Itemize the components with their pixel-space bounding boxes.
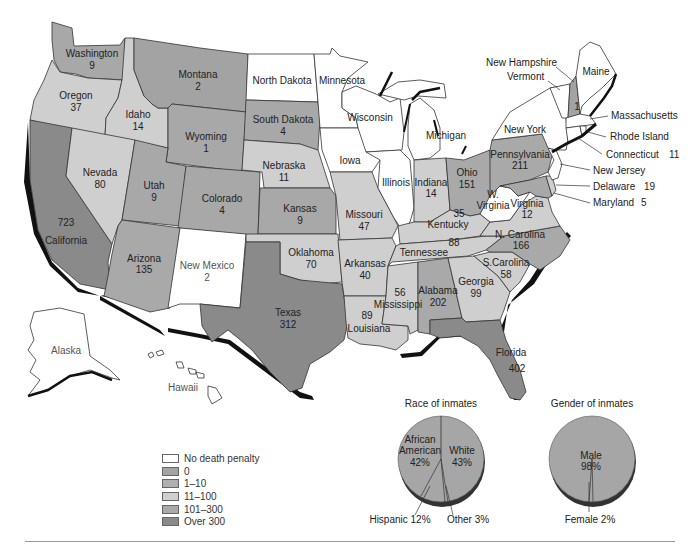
svg-text:Male: Male bbox=[580, 450, 602, 461]
svg-text:Vermont: Vermont bbox=[507, 71, 544, 82]
svg-text:11: 11 bbox=[279, 172, 290, 183]
legend-label: No death penalty bbox=[184, 453, 260, 464]
svg-text:Wisconsin: Wisconsin bbox=[347, 112, 393, 123]
svg-text:Missouri: Missouri bbox=[345, 209, 382, 220]
svg-text:Oklahoma: Oklahoma bbox=[288, 247, 334, 258]
svg-text:2: 2 bbox=[204, 272, 210, 283]
svg-text:Hispanic 12%: Hispanic 12% bbox=[369, 514, 430, 525]
svg-text:Massachusetts: Massachusetts bbox=[611, 110, 678, 121]
legend-swatch bbox=[162, 505, 179, 514]
svg-text:Race of inmates: Race of inmates bbox=[405, 398, 477, 409]
svg-text:Michigan: Michigan bbox=[426, 130, 466, 141]
svg-text:Nevada: Nevada bbox=[83, 167, 118, 178]
svg-text:98%: 98% bbox=[581, 461, 601, 472]
svg-text:Pennsylvania: Pennsylvania bbox=[490, 149, 550, 160]
svg-text:9: 9 bbox=[151, 192, 157, 203]
svg-text:North Dakota: North Dakota bbox=[253, 75, 312, 86]
svg-text:Idaho: Idaho bbox=[125, 109, 150, 120]
svg-text:Utah: Utah bbox=[143, 180, 164, 191]
svg-text:Female 2%: Female 2% bbox=[565, 514, 616, 525]
svg-text:14: 14 bbox=[132, 121, 144, 132]
death-row-map: Washington 9 Oregon 37 California 723 Id… bbox=[0, 0, 694, 550]
svg-text:2: 2 bbox=[195, 81, 201, 92]
legend-swatch bbox=[162, 492, 179, 501]
legend-label: 1–10 bbox=[184, 478, 206, 489]
svg-text:Gender of inmates: Gender of inmates bbox=[551, 398, 633, 409]
legend-swatch bbox=[162, 479, 179, 488]
legend-item: 1–10 bbox=[162, 477, 260, 490]
svg-text:19: 19 bbox=[644, 181, 656, 192]
svg-text:American: American bbox=[399, 445, 441, 456]
svg-text:88: 88 bbox=[448, 237, 460, 248]
legend-swatch bbox=[162, 454, 179, 463]
svg-text:166: 166 bbox=[513, 240, 530, 251]
svg-text:Hawaii: Hawaii bbox=[168, 382, 198, 393]
svg-text:Maine: Maine bbox=[582, 66, 610, 77]
legend-item: No death penalty bbox=[162, 452, 260, 465]
svg-text:Iowa: Iowa bbox=[339, 155, 361, 166]
svg-text:Maryland: Maryland bbox=[593, 197, 634, 208]
map-legend: No death penalty 0 1–10 11–100 101–300 O… bbox=[162, 452, 260, 528]
svg-text:56: 56 bbox=[394, 287, 406, 298]
state-hawaii[interactable] bbox=[148, 350, 222, 404]
svg-text:White: White bbox=[449, 445, 475, 456]
svg-text:211: 211 bbox=[512, 160, 528, 171]
race-pie-chart: Race of inmates African American 42% Whi… bbox=[369, 398, 489, 525]
svg-text:58: 58 bbox=[500, 269, 512, 280]
svg-text:Minnesota: Minnesota bbox=[319, 75, 366, 86]
svg-text:402: 402 bbox=[509, 363, 526, 374]
legend-item: Over 300 bbox=[162, 515, 260, 528]
svg-text:14: 14 bbox=[425, 188, 437, 199]
legend-item: 0 bbox=[162, 465, 260, 478]
state-florida[interactable] bbox=[430, 318, 526, 400]
svg-text:Connecticut: Connecticut bbox=[606, 149, 659, 160]
svg-text:W.: W. bbox=[487, 189, 499, 200]
svg-text:151: 151 bbox=[459, 179, 476, 190]
svg-text:Georgia: Georgia bbox=[458, 276, 494, 287]
svg-text:Kansas: Kansas bbox=[283, 203, 316, 214]
svg-text:70: 70 bbox=[305, 259, 317, 270]
svg-text:42%: 42% bbox=[410, 457, 430, 468]
svg-text:37: 37 bbox=[70, 102, 82, 113]
svg-text:9: 9 bbox=[297, 215, 303, 226]
svg-text:Kentucky: Kentucky bbox=[427, 219, 468, 230]
svg-text:Texas: Texas bbox=[275, 307, 301, 318]
svg-text:89: 89 bbox=[361, 310, 373, 321]
state-maine[interactable] bbox=[576, 42, 616, 114]
svg-text:Arkansas: Arkansas bbox=[344, 258, 386, 269]
svg-text:Wyoming: Wyoming bbox=[185, 131, 227, 142]
svg-text:Oregon: Oregon bbox=[59, 90, 92, 101]
svg-text:Indiana: Indiana bbox=[415, 177, 448, 188]
bottom-divider bbox=[25, 541, 675, 542]
svg-text:202: 202 bbox=[430, 297, 447, 308]
svg-text:Alabama: Alabama bbox=[418, 285, 458, 296]
svg-text:1: 1 bbox=[203, 143, 209, 154]
legend-item: 11–100 bbox=[162, 490, 260, 503]
svg-text:New Hampshire: New Hampshire bbox=[486, 57, 558, 68]
svg-text:312: 312 bbox=[280, 319, 297, 330]
legend-label: 11–100 bbox=[184, 491, 217, 502]
svg-text:South Dakota: South Dakota bbox=[253, 114, 314, 125]
svg-text:New Jersey: New Jersey bbox=[593, 165, 645, 176]
svg-text:1: 1 bbox=[574, 101, 580, 112]
svg-text:135: 135 bbox=[136, 264, 153, 275]
legend-swatch bbox=[162, 467, 179, 476]
svg-text:New Mexico: New Mexico bbox=[180, 260, 235, 271]
svg-text:Tennessee: Tennessee bbox=[400, 247, 449, 258]
svg-text:723: 723 bbox=[58, 217, 75, 228]
svg-text:12: 12 bbox=[521, 209, 533, 220]
svg-text:California: California bbox=[45, 235, 88, 246]
svg-text:43%: 43% bbox=[452, 457, 472, 468]
svg-text:99: 99 bbox=[470, 288, 482, 299]
svg-text:Virginia: Virginia bbox=[476, 200, 510, 211]
svg-text:Other 3%: Other 3% bbox=[447, 514, 489, 525]
svg-text:African: African bbox=[404, 434, 435, 445]
svg-text:5: 5 bbox=[641, 197, 647, 208]
legend-item: 101–300 bbox=[162, 503, 260, 516]
legend-label: 0 bbox=[184, 466, 190, 477]
svg-text:47: 47 bbox=[358, 221, 370, 232]
svg-text:4: 4 bbox=[219, 205, 225, 216]
svg-text:Florida: Florida bbox=[496, 347, 527, 358]
svg-text:40: 40 bbox=[359, 270, 371, 281]
legend-label: 101–300 bbox=[184, 504, 223, 515]
